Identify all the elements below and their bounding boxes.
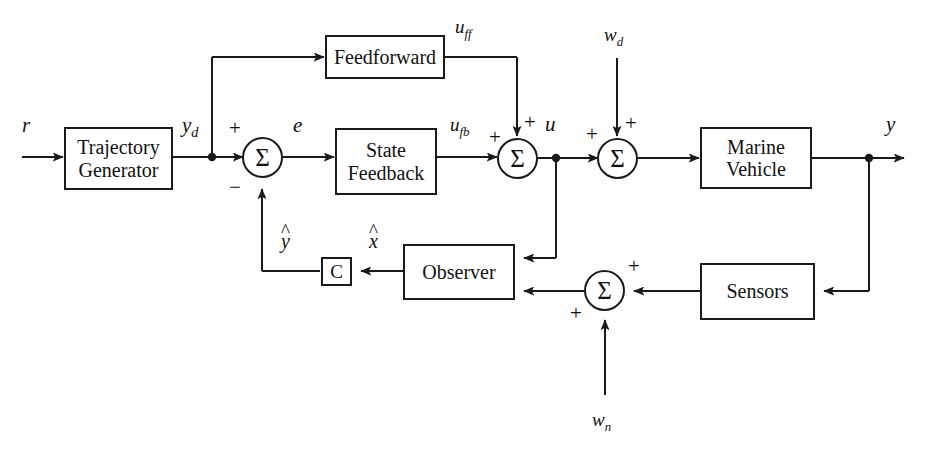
sigma-glyph: Σ <box>510 145 525 173</box>
label-feedback-control-ufb: ufb <box>450 114 470 140</box>
label-state-estimate-xhat: ^x <box>369 230 378 253</box>
summing-junction-disturbance[interactable]: Σ <box>597 138 638 179</box>
junction-dot-u <box>552 154 560 162</box>
label-reference-r: r <box>22 113 30 138</box>
label-base: u <box>455 16 465 37</box>
sign-noise-sum-plus-right: + <box>628 256 640 277</box>
block-label-line1: Sensors <box>726 280 788 302</box>
summing-junction-noise[interactable]: Σ <box>584 270 625 311</box>
label-subscript: n <box>605 419 611 434</box>
junction-dot-y <box>865 154 873 162</box>
block-label-line1: Trajectory <box>77 136 160 158</box>
hat-accent: ^ <box>281 220 290 242</box>
label-base: y <box>182 113 191 137</box>
block-output-matrix-c[interactable]: C <box>321 257 352 286</box>
sign-error-sum-minus: − <box>229 177 241 198</box>
junction-dot-yd <box>208 153 216 161</box>
block-label-line2: Feedback <box>348 162 425 184</box>
sign-control-sum-plus-left: + <box>489 127 501 148</box>
block-label-line1: Feedforward <box>334 46 436 68</box>
block-feedforward[interactable]: Feedforward <box>325 35 445 79</box>
block-label-line1: State <box>366 139 406 161</box>
summing-junction-control[interactable]: Σ <box>497 138 538 179</box>
sign-control-sum-plus-top: + <box>524 112 536 133</box>
sign-error-sum-plus: + <box>229 118 241 139</box>
label-base: u <box>450 114 460 135</box>
sigma-glyph: Σ <box>610 145 625 173</box>
sigma-glyph: Σ <box>255 144 270 172</box>
sigma-glyph: Σ <box>597 277 612 305</box>
block-label-line1: Observer <box>422 261 495 283</box>
label-subscript: d <box>617 34 623 49</box>
block-diagram-canvas: Trajectory Generator Feedforward State F… <box>0 0 926 453</box>
label-total-control-u: u <box>545 112 556 137</box>
block-label-line2: Vehicle <box>726 158 786 180</box>
block-label-line1: Marine <box>727 136 785 158</box>
label-disturbance-wd: wd <box>604 24 623 50</box>
hat-accent: ^ <box>369 220 378 242</box>
block-observer[interactable]: Observer <box>403 244 515 300</box>
label-base: w <box>604 24 617 45</box>
sign-disturbance-sum-plus-left: + <box>586 124 598 145</box>
block-label-line1: C <box>330 261 343 282</box>
label-measurement-noise-wn: wn <box>592 409 611 435</box>
label-output-estimate-yhat: ^y <box>281 230 290 253</box>
label-base: w <box>592 409 605 430</box>
block-marine-vehicle[interactable]: Marine Vehicle <box>700 127 812 189</box>
label-desired-output-yd: yd <box>182 113 198 141</box>
label-subscript: fb <box>460 124 470 139</box>
hat-group: ^x <box>369 230 378 253</box>
block-state-feedback[interactable]: State Feedback <box>335 128 437 195</box>
label-subscript: d <box>191 124 198 140</box>
signal-wires <box>0 0 926 453</box>
block-sensors[interactable]: Sensors <box>700 263 815 320</box>
sign-disturbance-sum-plus-top: + <box>625 113 637 134</box>
hat-group: ^y <box>281 230 290 253</box>
sign-noise-sum-plus-bottom: + <box>570 303 582 324</box>
block-label-line2: Generator <box>79 159 159 181</box>
label-subscript: ff <box>465 26 472 41</box>
label-error-e: e <box>293 113 302 138</box>
label-output-y: y <box>886 112 895 137</box>
block-trajectory-generator[interactable]: Trajectory Generator <box>64 127 173 190</box>
summing-junction-error[interactable]: Σ <box>242 137 283 178</box>
label-feedforward-control-uff: uff <box>455 16 472 42</box>
